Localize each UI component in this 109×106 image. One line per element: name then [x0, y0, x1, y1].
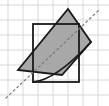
figure-canvas [0, 0, 109, 106]
geometry-figure [0, 0, 109, 106]
